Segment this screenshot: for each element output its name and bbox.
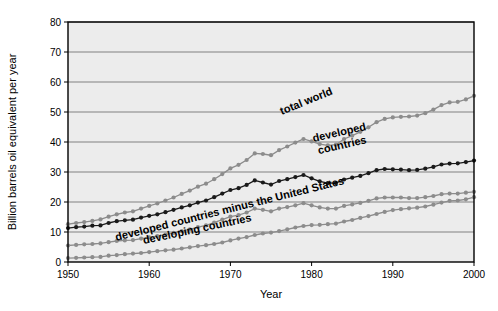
data-point	[82, 220, 86, 224]
data-point	[423, 195, 427, 199]
data-point	[155, 212, 159, 216]
data-point	[464, 197, 468, 201]
data-point	[147, 204, 151, 208]
data-point	[188, 203, 192, 207]
data-point	[220, 240, 224, 244]
data-point	[196, 244, 200, 248]
data-point	[285, 177, 289, 181]
data-point	[74, 225, 78, 229]
data-point	[407, 206, 411, 210]
data-point	[293, 203, 297, 207]
data-point	[90, 242, 94, 246]
data-point	[285, 205, 289, 209]
y-axis-title: Billion barrels oil equivalent per year	[6, 53, 18, 230]
data-point	[293, 175, 297, 179]
data-point	[115, 219, 119, 223]
data-point	[366, 125, 370, 129]
data-point	[139, 251, 143, 255]
data-point	[415, 196, 419, 200]
x-tick-label-1980: 1980	[300, 269, 323, 280]
data-point	[285, 227, 289, 231]
data-point	[188, 189, 192, 193]
y-tick-label-40: 40	[50, 137, 62, 148]
data-point	[439, 201, 443, 205]
data-point	[318, 205, 322, 209]
data-point	[342, 204, 346, 208]
x-tick-label-1990: 1990	[382, 269, 405, 280]
chart-container: 0102030405060708019501960197019801990200…	[0, 0, 498, 311]
data-point	[391, 208, 395, 212]
data-point	[358, 201, 362, 205]
data-point	[334, 207, 338, 211]
data-point	[456, 161, 460, 165]
data-point	[399, 168, 403, 172]
data-point	[269, 209, 273, 213]
data-point	[301, 201, 305, 205]
data-point	[293, 225, 297, 229]
data-point	[391, 115, 395, 119]
data-point	[107, 240, 111, 244]
y-tick-label-70: 70	[50, 47, 62, 58]
data-point	[310, 176, 314, 180]
data-point	[228, 238, 232, 242]
data-point	[310, 203, 314, 207]
data-point	[399, 195, 403, 199]
data-point	[171, 208, 175, 212]
data-point	[261, 152, 265, 156]
data-point	[439, 162, 443, 166]
data-point	[269, 153, 273, 157]
x-tick-label-2000: 2000	[463, 269, 486, 280]
data-point	[358, 174, 362, 178]
data-point	[383, 195, 387, 199]
data-point	[456, 192, 460, 196]
data-point	[90, 219, 94, 223]
x-tick-label-1960: 1960	[138, 269, 161, 280]
data-point	[269, 183, 273, 187]
data-point	[326, 207, 330, 211]
data-point	[131, 252, 135, 256]
data-point	[374, 168, 378, 172]
data-point	[107, 215, 111, 219]
data-point	[236, 186, 240, 190]
y-tick-label-50: 50	[50, 107, 62, 118]
data-point	[374, 196, 378, 200]
data-point	[261, 180, 265, 184]
y-tick-label-0: 0	[55, 257, 61, 268]
data-point	[155, 201, 159, 205]
data-point	[82, 225, 86, 229]
data-point	[212, 195, 216, 199]
data-point	[431, 203, 435, 207]
data-point	[334, 222, 338, 226]
data-point	[326, 222, 330, 226]
data-point	[391, 167, 395, 171]
data-point	[277, 148, 281, 152]
data-point	[123, 210, 127, 214]
data-point	[293, 141, 297, 145]
data-point	[261, 231, 265, 235]
line-chart: 0102030405060708019501960197019801990200…	[0, 0, 498, 311]
data-point	[98, 241, 102, 245]
data-point	[415, 206, 419, 210]
data-point	[456, 198, 460, 202]
data-point	[220, 192, 224, 196]
data-point	[123, 252, 127, 256]
data-point	[448, 199, 452, 203]
data-point	[423, 204, 427, 208]
data-point	[399, 115, 403, 119]
data-point	[350, 218, 354, 222]
data-point	[131, 209, 135, 213]
y-tick-label-30: 30	[50, 167, 62, 178]
data-point	[204, 243, 208, 247]
data-point	[236, 163, 240, 167]
data-point	[245, 235, 249, 239]
data-point	[448, 100, 452, 104]
data-point	[415, 168, 419, 172]
data-point	[253, 178, 257, 182]
data-point	[464, 97, 468, 101]
data-point	[245, 183, 249, 187]
data-point	[431, 108, 435, 112]
y-tick-label-20: 20	[50, 197, 62, 208]
data-point	[147, 250, 151, 254]
data-point	[98, 223, 102, 227]
data-point	[74, 221, 78, 225]
